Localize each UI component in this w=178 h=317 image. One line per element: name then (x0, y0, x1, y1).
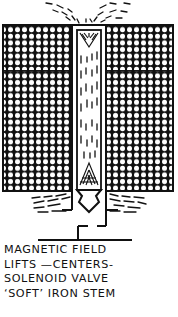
caption-line-3: SOLENOID VALVE (4, 272, 176, 287)
caption-line-4: ‘SOFT’ IRON STEM (4, 287, 176, 302)
valve-seat (38, 207, 132, 240)
valve-tip (77, 190, 101, 212)
right-coil-winding (106, 25, 173, 71)
caption-line-2: LIFTS —CENTERS- (4, 258, 176, 273)
figure-caption: MAGNETIC FIELD LIFTS —CENTERS- SOLENOID … (4, 243, 176, 301)
left-coil-winding (3, 25, 72, 72)
left-coil-lower (3, 71, 72, 191)
field-lines-top (46, 3, 130, 23)
caption-line-1: MAGNETIC FIELD (4, 243, 176, 258)
soft-iron-stem (77, 30, 101, 190)
right-coil-lower (106, 71, 173, 191)
